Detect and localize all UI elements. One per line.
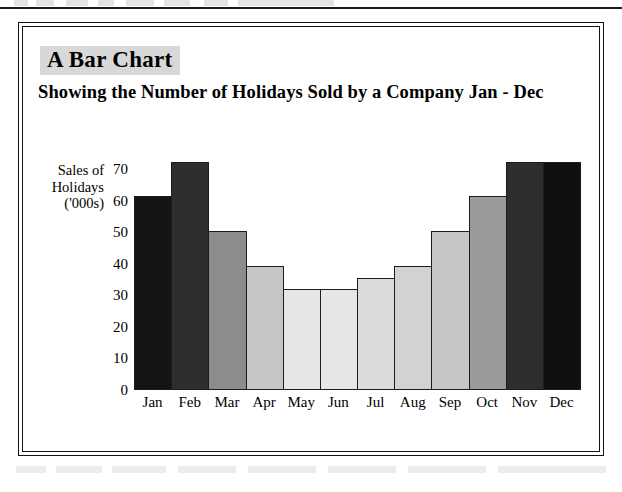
y-axis-label: Sales of Holidays ('000s) xyxy=(36,162,104,212)
y-axis-label-line-2: Holidays xyxy=(36,179,104,196)
bar xyxy=(246,266,284,390)
x-tick-label: Feb xyxy=(171,394,208,411)
x-tick-label: Aug xyxy=(394,394,431,411)
bar xyxy=(469,196,507,390)
y-tick-label: 70 xyxy=(113,162,128,177)
y-tick-label: 20 xyxy=(113,319,128,334)
y-axis-tick-labels: 010203040506070 xyxy=(104,160,128,390)
x-tick-label: Nov xyxy=(506,394,543,411)
x-tick-label: Dec xyxy=(543,394,580,411)
bar xyxy=(506,162,544,390)
y-tick-label: 10 xyxy=(113,351,128,366)
bar xyxy=(431,231,469,390)
bar xyxy=(543,162,581,390)
bar xyxy=(357,278,395,390)
y-axis-label-line-1: Sales of xyxy=(36,162,104,179)
x-axis-tick-labels: JanFebMarAprMayJunJulAugSepOctNovDec xyxy=(134,394,580,411)
x-tick-label: Jan xyxy=(134,394,171,411)
plot-area xyxy=(134,160,580,390)
x-tick-label: Oct xyxy=(469,394,506,411)
x-tick-label: Jun xyxy=(320,394,357,411)
y-tick-label: 0 xyxy=(121,383,129,398)
y-tick-label: 30 xyxy=(113,288,128,303)
x-tick-label: Jul xyxy=(357,394,394,411)
y-tick-label: 60 xyxy=(113,193,128,208)
bar xyxy=(320,289,358,390)
page-top-bleed-text xyxy=(14,0,334,6)
bar xyxy=(283,289,321,390)
x-tick-label: May xyxy=(283,394,320,411)
bar xyxy=(208,231,246,390)
x-tick-label: Mar xyxy=(208,394,245,411)
bar xyxy=(134,196,172,390)
x-tick-label: Apr xyxy=(246,394,283,411)
y-tick-label: 40 xyxy=(113,256,128,271)
chart-title: A Bar Chart xyxy=(40,46,180,75)
bar xyxy=(394,266,432,390)
page-top-rule xyxy=(0,7,622,9)
x-tick-label: Sep xyxy=(431,394,468,411)
bar xyxy=(171,162,209,390)
page-bottom-bleed-text xyxy=(16,466,606,473)
y-tick-label: 50 xyxy=(113,225,128,240)
y-axis-label-line-3: ('000s) xyxy=(36,195,104,212)
bar-series xyxy=(134,160,580,390)
chart-subtitle: Showing the Number of Holidays Sold by a… xyxy=(38,82,544,103)
